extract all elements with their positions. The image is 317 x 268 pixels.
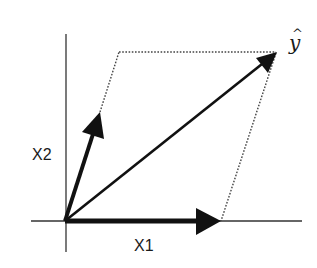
parallelogram-dotted-edges <box>100 52 276 221</box>
dotted-edge-right <box>221 53 276 221</box>
dotted-edge-left <box>100 52 119 112</box>
x1-label: X1 <box>134 237 154 254</box>
yhat-label: y ^ <box>288 26 303 55</box>
yhat-label-hat: ^ <box>292 26 303 41</box>
x1-vector <box>65 208 221 235</box>
x2-label: X2 <box>32 146 52 163</box>
vector-addition-diagram: X2 X1 y ^ <box>0 0 317 268</box>
x2-arrowhead-icon <box>82 112 104 139</box>
x1-arrowhead-icon <box>196 208 221 235</box>
yhat-arrowhead-icon <box>256 52 277 73</box>
